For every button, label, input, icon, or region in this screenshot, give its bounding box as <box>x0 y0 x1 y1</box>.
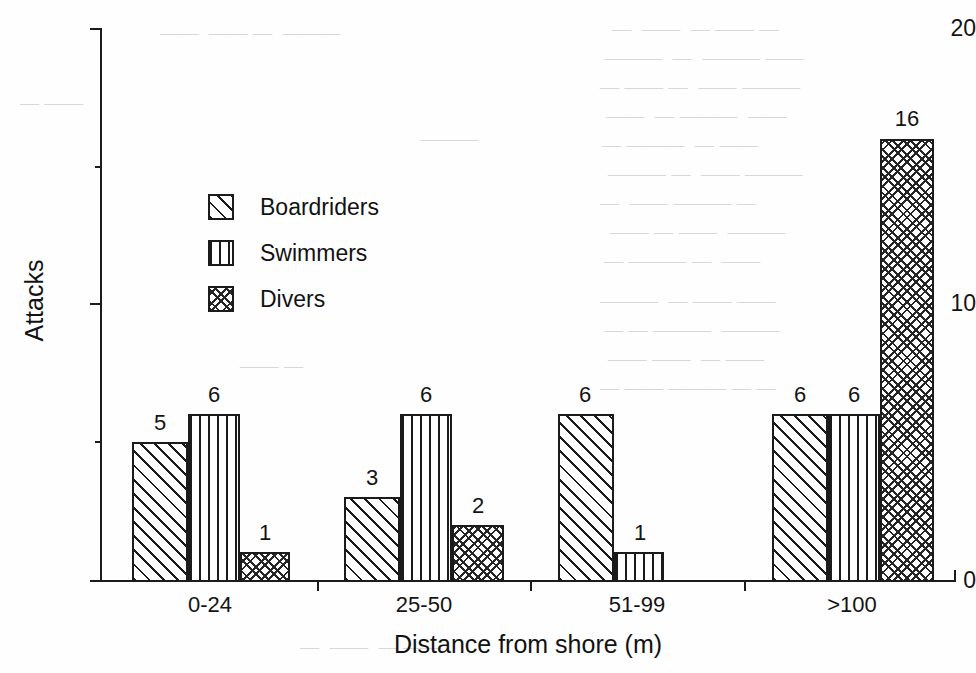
bar-value-51-99-boardriders: 6 <box>555 384 615 406</box>
x-tick-sep-1 <box>317 582 319 591</box>
bar-25-50-swimmers[interactable] <box>400 414 452 582</box>
diagonal-hatch-swatch-icon <box>208 194 234 220</box>
y-tick-20 <box>90 28 101 30</box>
bar-51-99-boardriders[interactable] <box>558 414 614 582</box>
bar-51-99-swimmers[interactable] <box>614 552 664 582</box>
bar-value-25-50-boardriders: 3 <box>342 467 402 489</box>
bar-value-25-50-swimmers: 6 <box>396 384 456 406</box>
x-tick-label-25-50: 25-50 <box>344 594 504 616</box>
legend: Boardriders Swimmers Divers <box>208 188 379 326</box>
x-axis-title: Distance from shore (m) <box>100 630 956 659</box>
bar-value-25-50-divers: 2 <box>448 495 508 517</box>
bar-25-50-boardriders[interactable] <box>344 497 400 582</box>
bar-value-over-100-divers: 16 <box>877 108 937 130</box>
bar-0-24-boardriders[interactable] <box>132 442 188 582</box>
legend-item-divers[interactable]: Divers <box>208 280 379 318</box>
bar-over-100-boardriders[interactable] <box>772 414 828 582</box>
bar-over-100-swimmers[interactable] <box>828 414 880 582</box>
bar-value-0-24-swimmers: 6 <box>184 384 244 406</box>
bar-value-0-24-divers: 1 <box>235 522 295 544</box>
bar-over-100-divers[interactable] <box>880 139 934 582</box>
bar-0-24-divers[interactable] <box>240 552 290 582</box>
x-tick-label-0-24: 0-24 <box>130 594 290 616</box>
x-tick-end <box>954 570 956 582</box>
bar-value-51-99-swimmers: 1 <box>610 522 670 544</box>
y-tick-15 <box>95 166 101 168</box>
y-axis-line <box>100 28 102 582</box>
y-tick-5 <box>95 441 101 443</box>
x-tick-label-51-99: 51-99 <box>557 594 717 616</box>
vertical-lines-swatch-icon <box>208 240 234 266</box>
bar-25-50-divers[interactable] <box>452 525 504 582</box>
y-tick-10 <box>90 303 101 305</box>
x-tick-sep-3 <box>744 582 746 591</box>
bar-value-0-24-boardriders: 5 <box>130 412 190 434</box>
legend-label-boardriders: Boardriders <box>260 194 379 221</box>
y-axis-title: Attacks <box>20 221 49 381</box>
bar-value-over-100-boardriders: 6 <box>770 384 830 406</box>
bar-value-over-100-swimmers: 6 <box>824 384 884 406</box>
legend-label-swimmers: Swimmers <box>260 240 367 267</box>
x-tick-label-over-100: >100 <box>772 594 932 616</box>
x-tick-sep-2 <box>530 582 532 591</box>
y-tick-0 <box>90 580 101 582</box>
bar-chart: 20 10 0 Attacks 0-24 25-50 51-99 >100 Di… <box>0 0 976 673</box>
y-tick-label-20: 20 <box>892 17 976 40</box>
legend-label-divers: Divers <box>260 286 325 313</box>
legend-item-boardriders[interactable]: Boardriders <box>208 188 379 226</box>
legend-item-swimmers[interactable]: Swimmers <box>208 234 379 272</box>
bar-0-24-swimmers[interactable] <box>188 414 240 582</box>
dashed-crosshatch-swatch-icon <box>208 286 234 312</box>
chart-page: ― ―― ― ―― ― ――― ― ――― ―― ― ―― ― ―― ――― ―… <box>0 0 976 673</box>
